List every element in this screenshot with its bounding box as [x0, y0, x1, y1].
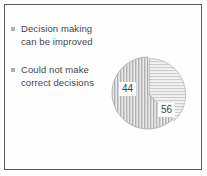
- square-bullet-icon: [11, 27, 15, 31]
- legend-item-label: Could not make correct decisions: [11, 64, 101, 89]
- chart-legend: Decision making can be improved Could no…: [11, 23, 101, 105]
- legend-item-decision-making[interactable]: Decision making can be improved: [11, 23, 101, 48]
- pie-slice-label-44: 44: [119, 82, 136, 96]
- pie-chart[interactable]: 44 56: [108, 43, 188, 138]
- legend-item-could-not-make-correct-decisions[interactable]: Could not make correct decisions: [11, 64, 101, 89]
- slide-frame: Decision making can be improved Could no…: [4, 4, 202, 170]
- slide-canvas: Decision making can be improved Could no…: [5, 5, 201, 169]
- square-bullet-icon: [11, 68, 15, 72]
- pie-slice-label-56: 56: [158, 103, 175, 117]
- legend-item-label: Decision making can be improved: [11, 23, 101, 48]
